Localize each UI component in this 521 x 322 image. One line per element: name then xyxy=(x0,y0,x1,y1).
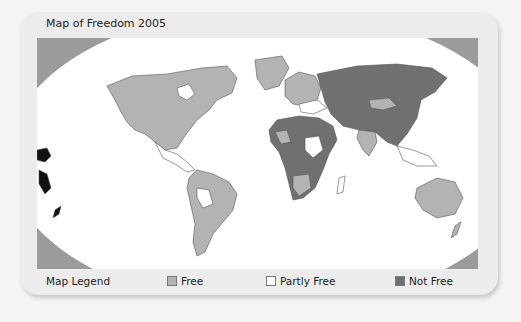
legend-item-not-free: Not Free xyxy=(395,275,453,287)
legend-heading: Map Legend xyxy=(46,275,110,287)
legend-label-free: Free xyxy=(181,275,203,287)
legend-item-free: Free xyxy=(167,275,203,287)
free-swatch-icon xyxy=(167,276,177,286)
partly-free-swatch-icon xyxy=(266,276,276,286)
world-map xyxy=(37,38,478,269)
legend-item-partly-free: Partly Free xyxy=(266,275,335,287)
map-legend: Map Legend Free Partly Free Not Free xyxy=(37,274,478,290)
world-map-graphic xyxy=(37,38,478,269)
legend-label-not-free: Not Free xyxy=(409,275,453,287)
map-title: Map of Freedom 2005 xyxy=(46,17,166,30)
legend-label-partly-free: Partly Free xyxy=(280,275,335,287)
not-free-swatch-icon xyxy=(395,276,405,286)
